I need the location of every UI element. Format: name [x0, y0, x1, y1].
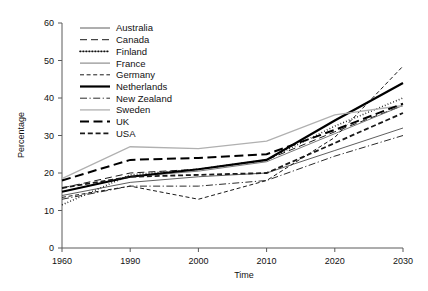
series-line-germany [62, 66, 403, 199]
x-tick-label: 2010 [257, 256, 277, 266]
x-tick-label: 2020 [325, 256, 345, 266]
x-tick-label: 1960 [52, 256, 72, 266]
y-axis-title: Percentage [16, 112, 26, 158]
x-tick-label: 2000 [188, 256, 208, 266]
legend-label-netherlands: Netherlands [116, 81, 167, 92]
series-line-australia [62, 128, 403, 196]
y-tick-label: 60 [44, 18, 54, 28]
line-chart: 0102030405060 196019902000201020202030 A… [0, 0, 428, 291]
legend-label-new-zealand: New Zealand [116, 93, 172, 104]
legend-label-germany: Germany [116, 69, 155, 80]
chart-legend: AustraliaCanadaFinlandFranceGermanyNethe… [80, 22, 172, 138]
y-tick-label: 10 [44, 206, 54, 216]
y-tick-label: 40 [44, 93, 54, 103]
chart-canvas: 0102030405060 196019902000201020202030 A… [0, 0, 428, 291]
y-tick-label: 0 [49, 243, 54, 253]
series-line-sweden [62, 106, 403, 179]
series-line-uk [62, 104, 403, 181]
x-tick-label: 1990 [120, 256, 140, 266]
series-line-netherlands [62, 83, 403, 192]
legend-label-finland: Finland [116, 46, 147, 57]
legend-label-australia: Australia [116, 22, 154, 33]
y-tick-label: 30 [44, 131, 54, 141]
x-axis: 196019902000201020202030 [52, 248, 413, 266]
x-axis-title: Time [234, 270, 254, 280]
legend-label-canada: Canada [116, 34, 150, 45]
legend-label-sweden: Sweden [116, 104, 150, 115]
y-tick-label: 20 [44, 168, 54, 178]
legend-label-usa: USA [116, 128, 136, 139]
legend-label-france: France [116, 58, 146, 69]
x-tick-label: 2030 [393, 256, 413, 266]
legend-label-uk: UK [116, 116, 130, 127]
y-tick-label: 50 [44, 56, 54, 66]
series-lines [62, 66, 403, 205]
series-line-canada [62, 106, 403, 189]
y-axis: 0102030405060 [44, 18, 62, 253]
